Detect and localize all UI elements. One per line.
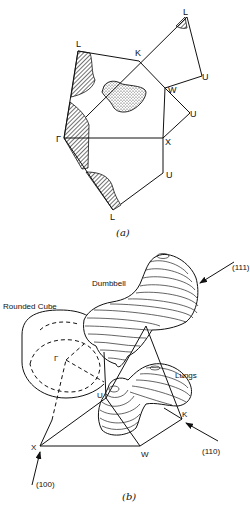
zone-edges xyxy=(64,17,202,210)
panel-a: L L K U W U Γ X U L (a) xyxy=(56,7,209,238)
point-label-X-3d: X xyxy=(31,443,37,452)
panel-b: Dumbbell Rounded Cube Lungs (111) (110) … xyxy=(3,254,250,503)
caption-a: (a) xyxy=(116,227,130,238)
figure-canvas: L L K U W U Γ X U L (a) xyxy=(0,0,250,513)
arrow-111-icon xyxy=(200,262,234,283)
point-label-W: W xyxy=(168,85,177,95)
point-label-U-low: U xyxy=(166,170,173,180)
point-label-L-bottom: L xyxy=(110,212,115,222)
point-label-gamma-3d: Γ xyxy=(54,354,59,363)
stippled-region xyxy=(102,81,146,112)
point-label-K: K xyxy=(135,48,141,58)
dumbbell-shape xyxy=(84,254,199,367)
point-label-X: X xyxy=(165,137,171,147)
point-label-U-mid: U xyxy=(190,109,197,119)
label-direction-110: (110) xyxy=(202,447,220,456)
point-label-L-top: L xyxy=(183,7,188,17)
label-direction-100: (100) xyxy=(36,480,55,489)
label-direction-111: (111) xyxy=(232,263,250,272)
point-label-W-3d: W xyxy=(141,450,149,459)
point-label-K-3d: K xyxy=(182,410,188,419)
caption-b: (b) xyxy=(122,491,136,502)
point-label-U-top: U xyxy=(202,72,209,82)
label-rounded-cube: Rounded Cube xyxy=(3,302,57,311)
point-label-U-3d: U xyxy=(97,391,103,400)
label-lungs: Lungs xyxy=(175,371,197,380)
label-dumbbell: Dumbbell xyxy=(92,279,126,288)
arrow-110-icon xyxy=(186,423,218,441)
point-label-gamma: Γ xyxy=(56,134,61,144)
point-label-L-left: L xyxy=(76,39,81,49)
